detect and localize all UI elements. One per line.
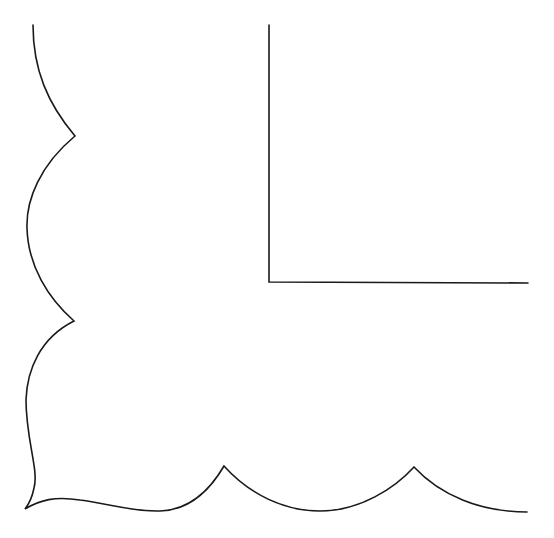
scalloped-outline [25,25,527,512]
inner-border-line [269,25,528,283]
frame-corner-diagram [0,0,554,538]
